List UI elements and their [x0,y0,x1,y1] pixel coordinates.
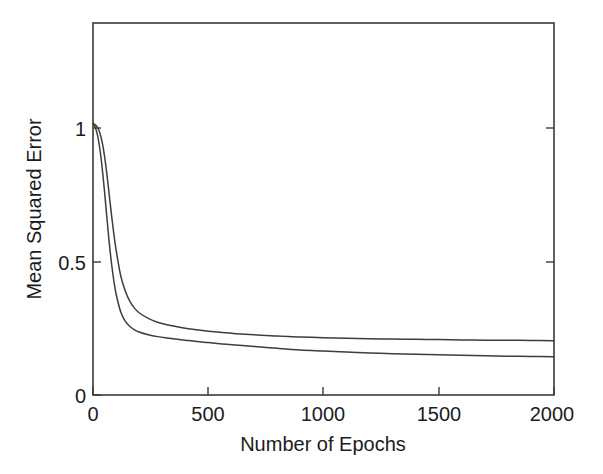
x-axis-ticks [93,387,554,395]
x-axis-title: Number of Epochs [240,433,406,455]
chart-figure: 1 0.5 0 0 500 1000 1500 2000 Number of E… [0,0,603,474]
x-tick-label-1500: 1500 [417,403,462,425]
x-tick-label-0: 0 [87,403,98,425]
y-tick-label-0-5: 0.5 [58,252,86,274]
x-tick-label-500: 500 [191,403,224,425]
series-line-upper [93,123,554,340]
plot-frame [93,23,554,395]
x-tick-label-1000: 1000 [301,403,346,425]
y-axis-title: Mean Squared Error [23,118,45,300]
y-tick-label-1: 1 [75,118,86,140]
y-tick-label-0: 0 [75,385,86,407]
series-line-lower [93,123,554,356]
line-chart-canvas: 1 0.5 0 0 500 1000 1500 2000 Number of E… [0,0,603,474]
x-tick-label-2000: 2000 [530,403,575,425]
